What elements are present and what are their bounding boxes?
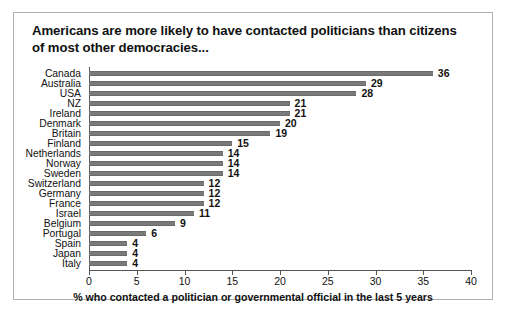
- bar: [89, 161, 223, 166]
- bar-value-label: 4: [132, 257, 138, 269]
- x-axis-tick-label: 25: [322, 275, 334, 287]
- x-axis-tick-label: 10: [179, 275, 191, 287]
- x-axis-caption: % who contacted a politician or governme…: [14, 291, 492, 303]
- bar: [89, 141, 232, 146]
- x-axis-tick-label: 35: [417, 275, 429, 287]
- bar-row: 36: [89, 69, 471, 79]
- category-label: Italy: [14, 259, 85, 269]
- bar: [89, 151, 223, 156]
- x-axis-tick-label: 15: [226, 275, 238, 287]
- bar-value-label: 9: [180, 217, 186, 229]
- category-axis: CanadaAustraliaUSANZIrelandDenmarkBritai…: [14, 69, 85, 269]
- bar-row: 15: [89, 139, 471, 149]
- bar: [89, 211, 194, 216]
- bar: [89, 241, 127, 246]
- bar-value-label: 6: [151, 227, 157, 239]
- bar-row: 21: [89, 109, 471, 119]
- bar: [89, 191, 204, 196]
- plot-area: 36292821212019151414141212121196444: [89, 69, 471, 269]
- bar-row: 19: [89, 129, 471, 139]
- bar: [89, 201, 204, 206]
- bar-value-label: 28: [361, 87, 373, 99]
- bar-row: 21: [89, 99, 471, 109]
- x-axis-tick-label: 0: [86, 275, 92, 287]
- bar: [89, 71, 433, 76]
- bar: [89, 121, 280, 126]
- bar-row: 6: [89, 229, 471, 239]
- bar-row: 4: [89, 249, 471, 259]
- bar-value-label: 11: [199, 207, 210, 219]
- bar: [89, 181, 204, 186]
- bar-row: 9: [89, 219, 471, 229]
- figure-frame: Americans are more likely to have contac…: [13, 12, 493, 300]
- x-axis-tick-labels: 0510152025303540: [89, 275, 471, 289]
- bar: [89, 171, 223, 176]
- x-axis-tick-label: 5: [134, 275, 140, 287]
- bar: [89, 111, 290, 116]
- bar: [89, 251, 127, 256]
- bar: [89, 101, 290, 106]
- x-axis-tick-label: 30: [370, 275, 382, 287]
- bar-row: 4: [89, 239, 471, 249]
- bar: [89, 221, 175, 226]
- bar-row: 11: [89, 209, 471, 219]
- bar-row: 29: [89, 79, 471, 89]
- bar: [89, 231, 146, 236]
- bar: [89, 91, 356, 96]
- bar-row: 14: [89, 169, 471, 179]
- bar: [89, 81, 366, 86]
- bar-value-label: 36: [438, 67, 450, 79]
- bar-row: 28: [89, 89, 471, 99]
- bar-value-label: 19: [275, 127, 287, 139]
- bar-row: 12: [89, 189, 471, 199]
- chart-title: Americans are more likely to have contac…: [32, 22, 472, 56]
- bar-value-label: 14: [228, 167, 240, 179]
- bar-row: 12: [89, 179, 471, 189]
- bar-value-label: 12: [209, 197, 221, 209]
- x-axis-tick-label: 20: [274, 275, 286, 287]
- bar-row: 14: [89, 149, 471, 159]
- bar-row: 4: [89, 259, 471, 269]
- x-axis-tick-label: 40: [465, 275, 477, 287]
- bar-row: 14: [89, 159, 471, 169]
- bar-row: 12: [89, 199, 471, 209]
- bar: [89, 261, 127, 266]
- bar: [89, 131, 270, 136]
